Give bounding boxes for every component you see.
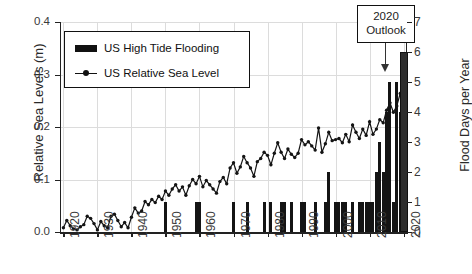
data-point	[198, 175, 201, 178]
data-point	[228, 166, 231, 169]
data-point	[303, 143, 306, 146]
x-axis-tick-mark	[234, 232, 235, 237]
x-axis-tick-label: 2020	[409, 211, 423, 238]
x-axis-tick-mark	[165, 232, 166, 237]
annotation-line-1: 2020	[358, 9, 414, 23]
data-point	[208, 183, 211, 186]
data-point	[211, 187, 214, 190]
x-axis-tick-mark	[199, 232, 200, 237]
legend-item-high-tide-flooding: US High Tide Flooding	[75, 42, 219, 54]
x-axis-tick-mark	[370, 232, 371, 237]
data-point	[249, 166, 252, 169]
x-axis-tick-mark	[63, 232, 64, 237]
x-axis-tick-mark	[268, 232, 269, 237]
data-point	[279, 151, 282, 154]
y-axis-left-tick-label: 0.4	[14, 16, 50, 28]
data-point	[143, 200, 146, 203]
y-axis-right-tick-mark	[407, 142, 412, 143]
data-point	[232, 161, 235, 164]
data-point	[324, 142, 327, 145]
x-axis-tick-mark	[404, 232, 405, 237]
data-point	[82, 223, 85, 226]
data-point	[300, 138, 303, 141]
x-axis-tick-label: 1960	[204, 211, 218, 238]
y-axis-right-tick-label: 4	[414, 106, 434, 118]
data-point	[126, 226, 129, 229]
data-point	[252, 175, 255, 178]
data-point	[222, 176, 225, 179]
data-point	[361, 127, 364, 130]
x-axis-tick-label: 2010	[375, 211, 389, 238]
y-axis-left-tick-mark	[55, 180, 60, 181]
data-point	[368, 120, 371, 123]
annotation-2020-outlook: 2020 Outlook	[357, 5, 415, 43]
y-axis-right-title: Flood Days per Year	[458, 15, 472, 215]
x-axis-tick-label: 1920	[68, 211, 82, 238]
y-axis-left-tick-mark	[55, 232, 60, 233]
data-point	[130, 216, 133, 219]
data-point	[239, 165, 242, 168]
data-point	[225, 182, 228, 185]
y-axis-right-tick-mark	[407, 22, 412, 23]
y-axis-left-tick-label: 0.0	[14, 226, 50, 238]
data-point	[273, 152, 276, 155]
y-axis-right-tick-label: 7	[414, 16, 434, 28]
data-point	[116, 219, 119, 222]
y-axis-left-tick-mark	[55, 22, 60, 23]
legend-item-relative-sea-level: US Relative Sea Level	[75, 67, 219, 79]
y-axis-left-tick-label: 0.3	[14, 69, 50, 81]
data-point	[290, 153, 293, 156]
y-axis-left-tick-label: 0.1	[14, 174, 50, 186]
legend-swatch-line-icon	[75, 70, 97, 77]
x-axis-tick-label: 1990	[307, 211, 321, 238]
data-point	[334, 138, 337, 141]
x-axis-tick-mark	[97, 232, 98, 237]
data-point	[201, 185, 204, 188]
data-point	[341, 141, 344, 144]
data-point	[310, 144, 313, 147]
data-point	[364, 134, 367, 137]
data-point	[395, 104, 398, 107]
data-point	[160, 198, 163, 201]
data-point	[164, 189, 167, 192]
data-point	[296, 152, 299, 155]
y-axis-right-tick-label: 5	[414, 76, 434, 88]
data-point	[262, 151, 265, 154]
data-point	[89, 217, 92, 220]
y-axis-right-tick-label: 6	[414, 46, 434, 58]
data-point	[62, 226, 65, 229]
legend-swatch-bar-icon	[75, 45, 97, 52]
data-point	[371, 133, 374, 136]
data-point	[147, 203, 150, 206]
x-axis-tick-label: 1980	[273, 211, 287, 238]
x-axis-tick-mark	[131, 232, 132, 237]
data-point	[358, 137, 361, 140]
x-axis-tick-label: 1930	[102, 211, 116, 238]
x-axis-tick-label: 1950	[170, 211, 184, 238]
y-axis-right-tick-label: 1	[414, 196, 434, 208]
data-point	[317, 126, 320, 129]
y-axis-left-tick-label: 0.2	[14, 121, 50, 133]
data-point	[150, 198, 153, 201]
data-point	[313, 148, 316, 151]
y-axis-right-tick-mark	[407, 172, 412, 173]
data-point	[327, 131, 330, 134]
data-point	[351, 123, 354, 126]
data-point	[120, 225, 123, 228]
data-point	[320, 151, 323, 154]
data-point	[245, 161, 248, 164]
data-point	[188, 184, 191, 187]
x-axis-tick-label: 1970	[239, 211, 253, 238]
y-axis-right-tick-mark	[407, 52, 412, 53]
data-point	[388, 101, 391, 104]
data-point	[266, 154, 269, 157]
data-point	[174, 183, 177, 186]
data-point	[218, 180, 221, 183]
data-point	[86, 215, 89, 218]
data-point	[215, 191, 218, 194]
data-point	[344, 133, 347, 136]
x-axis-tick-mark	[302, 232, 303, 237]
chart-legend: US High Tide Flooding US Relative Sea Le…	[64, 31, 250, 88]
data-point	[191, 178, 194, 181]
